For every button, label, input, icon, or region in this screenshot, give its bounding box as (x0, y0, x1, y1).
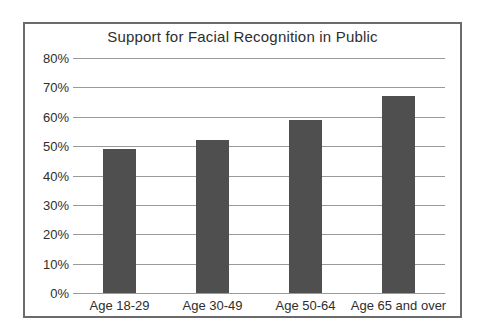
x-category-label-age-65-and-over: Age 65 and over (351, 298, 446, 313)
y-tick-label-0%: 0% (27, 286, 69, 301)
y-tick-label-20%: 20% (27, 227, 69, 242)
x-category-label-age-18-29: Age 18-29 (90, 298, 150, 313)
axis-label-layer: 0%10%20%30%40%50%60%70%80%Age 18-29Age 3… (25, 24, 460, 316)
y-tick-label-40%: 40% (27, 169, 69, 184)
y-tick-label-10%: 10% (27, 257, 69, 272)
y-tick-label-70%: 70% (27, 80, 69, 95)
chart-frame: Support for Facial Recognition in Public… (23, 22, 462, 318)
y-tick-label-50%: 50% (27, 139, 69, 154)
y-tick-label-60%: 60% (27, 110, 69, 125)
y-tick-label-30%: 30% (27, 198, 69, 213)
chart-canvas: Support for Facial Recognition in Public… (0, 0, 484, 336)
x-category-label-age-30-49: Age 30-49 (183, 298, 243, 313)
x-category-label-age-50-64: Age 50-64 (276, 298, 336, 313)
y-tick-label-80%: 80% (27, 51, 69, 66)
